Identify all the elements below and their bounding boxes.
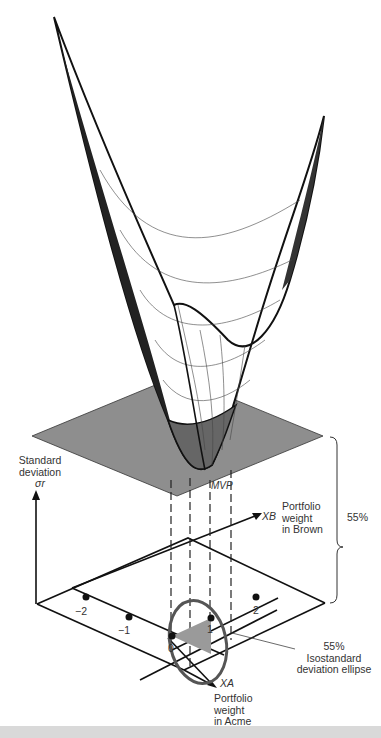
- tick-2: 2: [253, 605, 259, 617]
- tick-neg1: −1: [118, 625, 130, 637]
- xa-label: Portfolio weight in Acme: [214, 693, 253, 728]
- tick-1: 1: [207, 624, 213, 636]
- portfolio-surface-diagram: [0, 0, 381, 738]
- sigma-axis-label: Standard deviation σr: [10, 455, 70, 490]
- ellipse-line-1: 55%: [292, 641, 376, 653]
- xb-line-3: in Brown: [282, 524, 323, 536]
- y-label-1: Standard: [10, 455, 70, 467]
- brace: [330, 437, 343, 603]
- ellipse-line-3: deviation ellipse: [292, 664, 376, 676]
- xa-line-1: Portfolio: [214, 693, 253, 705]
- xb-axis: [72, 516, 255, 588]
- ellipse-label: 55% Isostandard deviation ellipse: [292, 641, 376, 676]
- xb-label: Portfolio weight in Brown: [282, 501, 323, 536]
- sigma-arrow-icon: [32, 490, 40, 500]
- xa-symbol: XA: [220, 678, 234, 690]
- xb-symbol: XB: [262, 511, 276, 523]
- tick-neg2: −2: [75, 606, 87, 618]
- risk-surface: [54, 17, 324, 470]
- xb-line-1: Portfolio: [282, 501, 323, 513]
- bottom-strip: [0, 726, 381, 738]
- mvp-label: MVP: [211, 480, 233, 492]
- brace-value: 55%: [347, 512, 368, 524]
- ellipse-leader: [232, 633, 295, 649]
- tick-0: 0: [168, 643, 174, 655]
- y-label-symbol: σr: [10, 478, 70, 490]
